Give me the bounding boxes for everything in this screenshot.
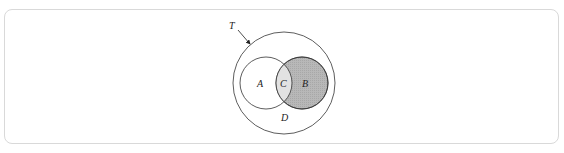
set-b-label: B <box>302 78 308 89</box>
intersection-c-label: C <box>280 78 287 89</box>
set-a-label: A <box>256 78 264 89</box>
outside-d-label: D <box>280 112 289 123</box>
universe-pointer-arrow <box>238 30 250 44</box>
universe-label: T <box>229 20 236 31</box>
venn-diagram: T A C B D <box>0 0 564 153</box>
